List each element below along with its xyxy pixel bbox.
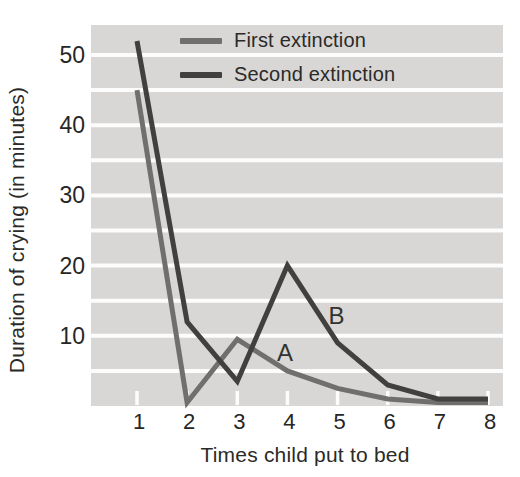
x-tick-label: 4: [283, 409, 295, 434]
x-tick-label: 2: [183, 409, 195, 434]
legend-item-second-extinction: Second extinction: [180, 62, 395, 87]
annotation-b: B: [329, 302, 345, 329]
x-tick-label: 6: [384, 409, 396, 434]
y-axis-title: Duration of crying (in minutes): [5, 87, 29, 373]
annotation-a: A: [277, 339, 293, 366]
x-tick-label: 8: [484, 409, 496, 434]
legend-item-first-extinction: First extinction: [180, 28, 395, 53]
y-tick-label: 20: [59, 253, 85, 279]
y-tick-label: 10: [59, 323, 85, 349]
legend-label-second-extinction: Second extinction: [234, 63, 395, 86]
x-tick-label: 3: [233, 409, 245, 434]
chart-legend: First extinctionSecond extinction: [180, 28, 395, 87]
x-tick-label: 7: [434, 409, 446, 434]
legend-label-first-extinction: First extinction: [234, 29, 366, 52]
extinction-line-chart: 102030405012345678AB First extinctionSec…: [0, 0, 520, 477]
y-tick-label: 30: [59, 182, 85, 208]
x-tick-label: 5: [333, 409, 345, 434]
legend-swatch-second-extinction: [180, 72, 222, 78]
y-tick-label: 40: [59, 112, 85, 138]
legend-swatch-first-extinction: [180, 38, 222, 44]
y-tick-label: 50: [59, 42, 85, 68]
x-tick-label: 1: [133, 409, 145, 434]
x-axis-title: Times child put to bed: [95, 443, 515, 467]
